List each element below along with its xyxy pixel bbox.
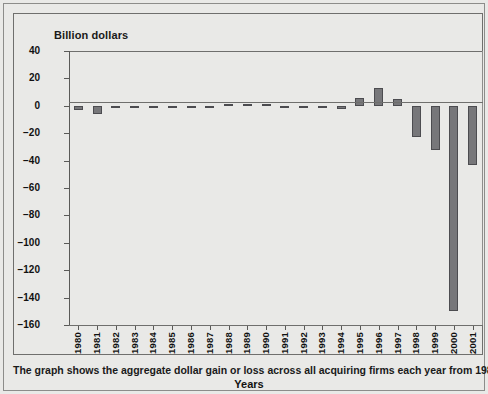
bar bbox=[187, 106, 196, 108]
x-tick-label: 1998 bbox=[411, 332, 421, 354]
bar bbox=[299, 106, 308, 108]
plot-bottom-rule bbox=[69, 325, 483, 326]
plot-right-rule bbox=[482, 51, 483, 326]
x-tick-label: 1983 bbox=[130, 332, 140, 354]
bar bbox=[412, 106, 421, 138]
bar bbox=[468, 106, 477, 165]
bar bbox=[318, 106, 327, 108]
x-tick-mark bbox=[398, 326, 399, 330]
x-tick-label: 1988 bbox=[224, 332, 234, 354]
x-tick-mark bbox=[473, 326, 474, 330]
x-tick-mark bbox=[210, 326, 211, 330]
y-tick-mark bbox=[64, 270, 69, 271]
plot-top-rule bbox=[69, 51, 483, 52]
y-tick-mark bbox=[64, 215, 69, 216]
x-tick-mark bbox=[341, 326, 342, 330]
y-tick-label: −100 bbox=[0, 237, 40, 248]
bar bbox=[243, 104, 252, 106]
bar bbox=[130, 106, 139, 108]
x-tick-label: 1990 bbox=[261, 332, 271, 354]
x-tick-label: 1995 bbox=[355, 332, 365, 354]
y-tick-mark bbox=[64, 325, 69, 326]
x-tick-mark bbox=[454, 326, 455, 330]
x-tick-mark bbox=[153, 326, 154, 330]
y-tick-mark bbox=[64, 133, 69, 134]
x-tick-mark bbox=[304, 326, 305, 330]
y-tick-label: 0 bbox=[0, 100, 40, 111]
x-tick-mark bbox=[78, 326, 79, 330]
x-tick-mark bbox=[97, 326, 98, 330]
x-tick-label: 1982 bbox=[111, 332, 121, 354]
y-tick-mark bbox=[64, 78, 69, 79]
y-tick-label: 40 bbox=[0, 45, 40, 56]
y-axis-title: Billion dollars bbox=[54, 29, 128, 41]
y-tick-mark bbox=[64, 188, 69, 189]
bar bbox=[74, 106, 83, 110]
zero-baseline bbox=[69, 102, 483, 103]
y-tick-label: −20 bbox=[0, 127, 40, 138]
bar bbox=[93, 106, 102, 114]
y-tick-label: −80 bbox=[0, 209, 40, 220]
x-tick-mark bbox=[172, 326, 173, 330]
x-tick-mark bbox=[247, 326, 248, 330]
screenshot-root: Billion dollars 40200−20−40−60−80−100−12… bbox=[0, 0, 488, 394]
x-tick-label: 1992 bbox=[299, 332, 309, 354]
x-tick-mark bbox=[116, 326, 117, 330]
y-tick-mark bbox=[64, 161, 69, 162]
bar bbox=[374, 88, 383, 106]
y-tick-mark bbox=[64, 298, 69, 299]
y-tick-mark bbox=[64, 51, 69, 52]
y-tick-label: −160 bbox=[0, 319, 40, 330]
x-tick-mark bbox=[191, 326, 192, 330]
chart-panel: Billion dollars 40200−20−40−60−80−100−12… bbox=[13, 13, 483, 355]
bar bbox=[337, 106, 346, 109]
x-axis-title: Years bbox=[14, 378, 484, 390]
bar bbox=[262, 104, 271, 106]
bar bbox=[224, 104, 233, 106]
x-tick-label: 1999 bbox=[430, 332, 440, 354]
x-tick-label: 1981 bbox=[92, 332, 102, 354]
x-tick-mark bbox=[135, 326, 136, 330]
bar bbox=[205, 106, 214, 108]
x-tick-label: 1991 bbox=[280, 332, 290, 354]
y-tick-label: −120 bbox=[0, 264, 40, 275]
bar bbox=[280, 106, 289, 108]
x-tick-label: 2000 bbox=[449, 332, 459, 354]
x-tick-label: 1993 bbox=[317, 332, 327, 354]
x-tick-mark bbox=[266, 326, 267, 330]
x-tick-mark bbox=[379, 326, 380, 330]
x-tick-label: 1985 bbox=[167, 332, 177, 354]
x-tick-label: 1980 bbox=[73, 332, 83, 354]
x-tick-label: 2001 bbox=[468, 332, 478, 354]
y-axis-line bbox=[69, 51, 70, 326]
x-tick-mark bbox=[360, 326, 361, 330]
x-tick-label: 1987 bbox=[205, 332, 215, 354]
figure-caption: The graph shows the aggregate dollar gai… bbox=[13, 364, 483, 377]
bar bbox=[449, 106, 458, 312]
x-tick-label: 1994 bbox=[336, 332, 346, 354]
x-tick-mark bbox=[322, 326, 323, 330]
bar bbox=[149, 106, 158, 108]
outer-frame: Billion dollars 40200−20−40−60−80−100−12… bbox=[3, 3, 485, 391]
y-tick-label: −40 bbox=[0, 155, 40, 166]
x-tick-label: 1989 bbox=[242, 332, 252, 354]
bar bbox=[168, 106, 177, 108]
x-tick-mark bbox=[229, 326, 230, 330]
y-tick-mark bbox=[64, 106, 69, 107]
x-tick-label: 1997 bbox=[393, 332, 403, 354]
x-tick-mark bbox=[285, 326, 286, 330]
x-tick-mark bbox=[435, 326, 436, 330]
y-tick-label: 20 bbox=[0, 72, 40, 83]
y-tick-mark bbox=[64, 243, 69, 244]
y-tick-label: −60 bbox=[0, 182, 40, 193]
bar bbox=[111, 106, 120, 108]
x-tick-label: 1984 bbox=[148, 332, 158, 354]
bar bbox=[431, 106, 440, 150]
x-tick-mark bbox=[416, 326, 417, 330]
x-tick-label: 1996 bbox=[374, 332, 384, 354]
x-tick-label: 1986 bbox=[186, 332, 196, 354]
y-tick-label: −140 bbox=[0, 292, 40, 303]
